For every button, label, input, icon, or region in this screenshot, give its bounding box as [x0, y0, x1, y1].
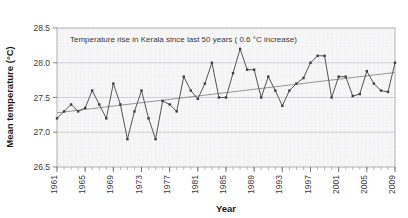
data-point-marker: [218, 96, 220, 98]
data-point-marker: [302, 77, 304, 79]
data-point-marker: [183, 75, 185, 77]
data-point-marker: [260, 96, 262, 98]
data-point-marker: [288, 89, 290, 91]
data-point-marker: [246, 69, 248, 71]
data-point-marker: [197, 98, 199, 100]
data-point-marker: [380, 89, 382, 91]
data-point-marker: [91, 89, 93, 91]
data-point-marker: [373, 82, 375, 84]
y-tick-label: 28.5: [33, 23, 50, 33]
x-tick-label: 1981: [190, 175, 200, 194]
data-point-marker: [112, 82, 114, 84]
data-point-marker: [147, 117, 149, 119]
data-point-marker: [352, 95, 354, 97]
data-point-marker: [225, 96, 227, 98]
x-tick-label: 1973: [134, 175, 144, 194]
data-point-marker: [316, 55, 318, 57]
data-point-marker: [154, 138, 156, 140]
data-point-marker: [345, 75, 347, 77]
temperature-line-chart: 26.527.027.528.028.5 1961196519691973197…: [0, 0, 408, 218]
x-tick-label: 1993: [274, 175, 284, 194]
data-point-marker: [359, 93, 361, 95]
data-point-marker: [77, 110, 79, 112]
data-point-marker: [366, 70, 368, 72]
data-point-marker: [56, 117, 58, 119]
x-tick-label: 1965: [77, 175, 87, 194]
x-tick-label: 1977: [162, 175, 172, 194]
chart-title: Temperature rise in Kerala since last 50…: [70, 35, 297, 44]
x-tick-label: 2001: [331, 175, 341, 194]
x-tick-label: 1997: [303, 175, 313, 194]
data-point-marker: [309, 62, 311, 64]
x-tick-label: 2005: [359, 175, 369, 194]
data-point-marker: [119, 103, 121, 105]
x-tick-label: 2009: [387, 175, 397, 194]
y-tick-label: 27.5: [33, 93, 50, 103]
data-point-marker: [281, 105, 283, 107]
x-tick-label: 1961: [49, 175, 59, 194]
data-point-marker: [168, 103, 170, 105]
data-point-marker: [176, 110, 178, 112]
data-point-marker: [105, 117, 107, 119]
y-tick-label: 28.0: [33, 58, 50, 68]
y-tick-label: 26.5: [33, 162, 50, 172]
data-point-marker: [161, 100, 163, 102]
x-tick-label: 1969: [105, 175, 115, 194]
data-point-marker: [267, 75, 269, 77]
data-point-marker: [126, 138, 128, 140]
data-point-marker: [387, 91, 389, 93]
data-point-marker: [204, 82, 206, 84]
data-point-marker: [239, 48, 241, 50]
y-tick-label: 27.0: [33, 127, 50, 137]
x-axis-title: Year: [216, 203, 236, 214]
x-tick-label: 1985: [218, 175, 228, 194]
data-point-marker: [274, 89, 276, 91]
data-point-marker: [337, 75, 339, 77]
data-point-marker: [190, 89, 192, 91]
data-point-marker: [84, 107, 86, 109]
data-point-marker: [133, 110, 135, 112]
data-point-marker: [295, 82, 297, 84]
data-point-marker: [70, 103, 72, 105]
data-point-marker: [323, 55, 325, 57]
data-point-marker: [394, 62, 396, 64]
data-point-marker: [140, 89, 142, 91]
x-tick-label: 1989: [246, 175, 256, 194]
data-point-marker: [63, 110, 65, 112]
y-axis-title: Mean temperature (°C): [4, 46, 15, 147]
data-point-marker: [98, 103, 100, 105]
data-point-marker: [232, 72, 234, 74]
data-point-marker: [253, 69, 255, 71]
data-point-marker: [211, 62, 213, 64]
chart-figure: 26.527.027.528.028.5 1961196519691973197…: [0, 0, 408, 218]
data-point-marker: [330, 96, 332, 98]
